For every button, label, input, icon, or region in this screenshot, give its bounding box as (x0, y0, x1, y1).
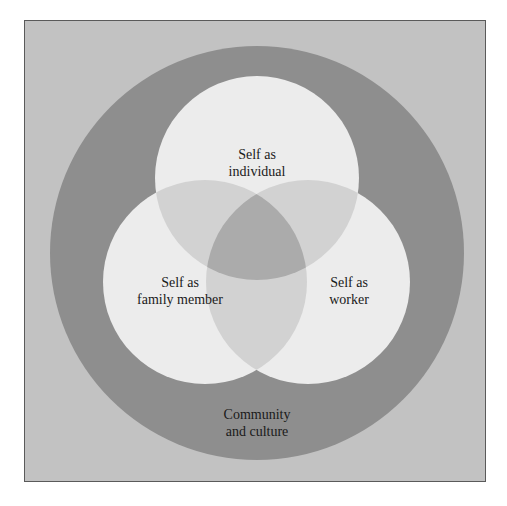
label-self-individual: Self as individual (229, 146, 286, 180)
label-community-culture: Community and culture (224, 406, 291, 440)
label-line: individual (229, 163, 286, 180)
label-self-family: Self as family member (137, 274, 223, 308)
label-line: Self as (329, 274, 369, 291)
label-line: worker (329, 291, 369, 308)
label-line: Self as (137, 274, 223, 291)
label-self-worker: Self as worker (329, 274, 369, 308)
label-line: Self as (229, 146, 286, 163)
label-line: family member (137, 291, 223, 308)
label-line: Community (224, 406, 291, 423)
label-line: and culture (224, 423, 291, 440)
